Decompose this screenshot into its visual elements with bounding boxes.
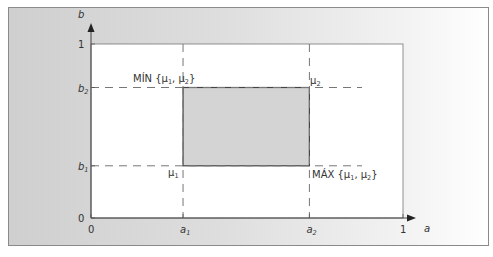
x-axis-label: a: [424, 223, 430, 234]
max-text: MÁX {μ: [312, 168, 351, 180]
x-tick-label-3: 1: [400, 224, 406, 235]
mu1-sub: 1: [174, 172, 178, 180]
x-tick-label-0: 0: [88, 224, 94, 235]
mu2-sub: 2: [316, 80, 320, 88]
y-axis-label: b: [78, 9, 84, 20]
min-text: MÍN {μ: [133, 72, 169, 84]
min-end: }: [189, 73, 195, 84]
diagram-canvas: b a 0a1a210b1b21 MÍN {μ1, μ2} MÁX {μ1, μ…: [0, 0, 493, 257]
y-tick-label-0: 0: [78, 213, 84, 224]
feasible-region: [183, 88, 309, 166]
max-end: }: [371, 169, 377, 180]
min-mid: , μ: [172, 73, 185, 84]
max-mid: , μ: [354, 169, 367, 180]
y-tick-label-3: 1: [78, 39, 84, 50]
